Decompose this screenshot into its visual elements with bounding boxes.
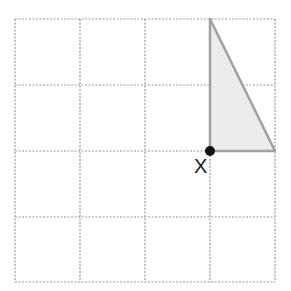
grid-diagram <box>0 0 291 291</box>
point-x-label: X <box>194 156 207 176</box>
